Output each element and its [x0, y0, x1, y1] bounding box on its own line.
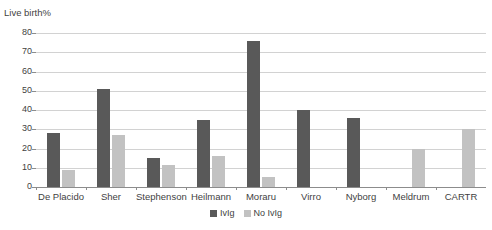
legend-label: No IvIg	[254, 208, 283, 218]
x-axis-tick-label: Heilmann	[186, 191, 236, 202]
x-axis-tick-mark	[336, 187, 337, 190]
y-axis-tick-mark	[32, 91, 36, 92]
legend-swatch-icon	[210, 210, 217, 217]
bar	[262, 177, 275, 187]
y-axis-tick-mark	[32, 129, 36, 130]
x-axis-tick-mark	[136, 187, 137, 190]
y-axis-tick-label: 30	[2, 124, 32, 133]
bar	[247, 41, 260, 187]
bar	[297, 110, 310, 187]
y-axis-tick-mark	[32, 33, 36, 34]
y-axis-title: Live birth%	[4, 7, 51, 18]
y-axis-tick-label: 50	[2, 86, 32, 95]
x-axis-tick-mark	[186, 187, 187, 190]
x-axis-tick-mark	[436, 187, 437, 190]
x-axis-tick-mark	[36, 187, 37, 190]
x-axis-tick-label: Meldrum	[386, 191, 436, 202]
x-axis-tick-label: Virro	[286, 191, 336, 202]
bar	[212, 156, 225, 187]
gridline	[36, 33, 486, 34]
y-axis-tick-label: 80	[2, 28, 32, 37]
bar	[47, 133, 60, 187]
y-axis-tick-label: 0	[2, 182, 32, 191]
gridline	[36, 72, 486, 73]
legend-item: No IvIg	[244, 208, 283, 218]
x-axis-tick-mark	[86, 187, 87, 190]
y-axis-tick-mark	[32, 149, 36, 150]
bar-chart: Live birth% 01020304050607080 De Placido…	[0, 0, 492, 230]
bar	[197, 120, 210, 187]
y-axis-tick-label: 10	[2, 163, 32, 172]
y-axis-tick-label: 20	[2, 144, 32, 153]
x-axis-tick-label: CARTR	[436, 191, 486, 202]
legend-item: IvIg	[210, 208, 235, 218]
bar	[347, 118, 360, 187]
legend-label: IvIg	[220, 208, 235, 218]
bar	[462, 129, 475, 187]
bar	[147, 158, 160, 187]
x-axis-tick-label: Stephenson	[136, 191, 186, 202]
x-axis-tick-mark	[286, 187, 287, 190]
y-axis-tick-mark	[32, 52, 36, 53]
y-axis-tick-mark	[32, 110, 36, 111]
y-axis-tick-label: 40	[2, 105, 32, 114]
plot-area	[36, 33, 486, 187]
x-axis-tick-label: Nyborg	[336, 191, 386, 202]
bar	[112, 135, 125, 187]
x-axis-line	[36, 187, 486, 188]
y-axis-tick-label: 60	[2, 67, 32, 76]
legend-swatch-icon	[244, 210, 251, 217]
x-axis-tick-mark	[386, 187, 387, 190]
chart-legend: IvIgNo IvIg	[0, 208, 492, 218]
y-axis-tick-label: 70	[2, 47, 32, 56]
bar	[162, 165, 175, 187]
x-axis-tick-label: De Placido	[36, 191, 86, 202]
x-axis-tick-label: Sher	[86, 191, 136, 202]
bar	[97, 89, 110, 187]
x-axis-tick-mark	[236, 187, 237, 190]
y-axis-tick-mark	[32, 168, 36, 169]
gridline	[36, 52, 486, 53]
bar	[62, 170, 75, 187]
bar	[412, 149, 425, 188]
x-axis-tick-label: Moraru	[236, 191, 286, 202]
y-axis-tick-mark	[32, 72, 36, 73]
